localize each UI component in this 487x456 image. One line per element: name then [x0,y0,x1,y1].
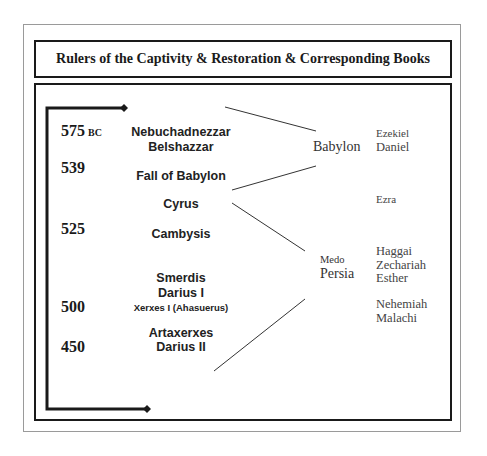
diagram-title: Rulers of the Captivity & Restoration & … [56,51,430,67]
ruler-darius-ii: Darius II [101,340,261,355]
ruler-fall-of-babylon: Fall of Babylon [101,169,261,184]
book-malachi: Malachi [376,311,417,325]
book-haggai: Haggai [376,244,412,258]
empire-medo: Medo [320,254,345,265]
year-575: 575BC [61,122,102,140]
empire-persia: Persia [320,266,354,282]
year-539: 539 [61,159,85,177]
year-500: 500 [61,298,85,316]
book-ezekiel: Ezekiel [376,127,409,140]
ruler-belshazzar: Belshazzar [101,140,261,155]
ruler-smerdis: Smerdis [101,271,261,286]
ruler-cambysis: Cambysis [101,227,261,242]
year-525: 525 [61,220,85,238]
year-450: 450 [61,338,85,356]
title-box: Rulers of the Captivity & Restoration & … [34,40,452,78]
book-esther: Esther [376,271,408,285]
book-ezra: Ezra [376,193,396,206]
ruler-artaxerxes: Artaxerxes [101,326,261,341]
ruler-darius-i: Darius I [101,286,261,301]
year-value: 575 [61,122,85,139]
ruler-xerxes-i: Xerxes I (Ahasuerus) [101,302,261,314]
ruler-nebuchadnezzar: Nebuchadnezzar [101,125,261,140]
ruler-cyrus: Cyrus [101,197,261,212]
book-daniel: Daniel [376,140,409,154]
book-zechariah: Zechariah [376,258,426,272]
year-suffix: BC [88,127,102,138]
empire-babylon: Babylon [313,139,360,155]
book-nehemiah: Nehemiah [376,297,427,311]
